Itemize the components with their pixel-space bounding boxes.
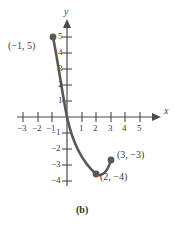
x-tick-label-5: 5	[137, 124, 142, 133]
y-tick-label-2: 2	[58, 80, 63, 89]
x-tick-label-neg2: −2	[32, 124, 42, 133]
coordinate-plot	[0, 0, 174, 227]
y-tick-label-1: 1	[58, 96, 63, 105]
y-axis-label: y	[64, 7, 68, 17]
point-label-2-neg4: (2, −4)	[100, 172, 127, 182]
function-curve	[53, 37, 111, 175]
y-tick-label-neg2: −2	[51, 144, 61, 153]
y-tick-label-neg3: −3	[51, 160, 61, 169]
point-marker-neg1-5	[50, 34, 57, 41]
x-axis-arrowhead	[152, 113, 161, 121]
point-label-neg1-5: (−1, 5)	[8, 41, 35, 51]
point-label-3-neg3: (3, −3)	[117, 150, 144, 160]
y-tick-label-neg4: −4	[51, 176, 61, 185]
x-axis-label: x	[164, 106, 168, 116]
figure-caption: (b)	[76, 205, 88, 215]
y-tick-label-neg1: −1	[51, 128, 61, 137]
x-tick-label-4: 4	[122, 124, 127, 133]
y-tick-label-5: 5	[58, 32, 63, 41]
y-tick-label-4: 4	[58, 48, 63, 57]
point-marker-2-neg4	[93, 171, 100, 178]
x-tick-label-1: 1	[79, 124, 84, 133]
point-marker-3-neg3	[108, 157, 115, 164]
y-axis-arrowhead	[63, 19, 71, 28]
figure-panel: y x −3 −2 −1 1 2 3 4 5 5 4 3 2 1 −1 −2 −…	[0, 0, 174, 227]
x-tick-label-neg3: −3	[17, 124, 27, 133]
x-tick-label-3: 3	[108, 124, 113, 133]
y-tick-label-3: 3	[58, 64, 63, 73]
x-tick-label-2: 2	[93, 124, 98, 133]
